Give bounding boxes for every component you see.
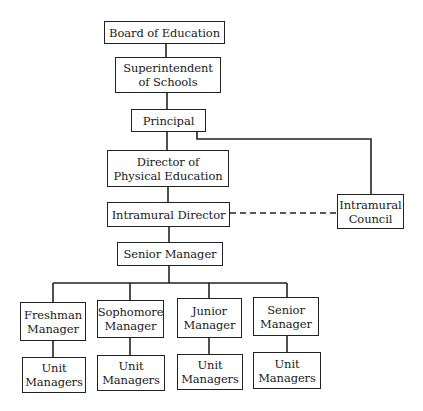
node-director-physical-education: Director of Physical Education <box>107 150 229 187</box>
org-chart: Board of Education Superintendent of Sch… <box>0 0 423 411</box>
node-principal: Principal <box>131 109 206 132</box>
node-senior-class-manager: Senior Manager <box>253 297 319 336</box>
node-superintendent: Superintendent of Schools <box>115 57 221 93</box>
node-intramural-director: Intramural Director <box>107 202 230 227</box>
node-board-of-education: Board of Education <box>104 21 225 44</box>
node-senior-manager: Senior Manager <box>117 242 223 266</box>
node-junior-manager: Junior Manager <box>177 298 242 338</box>
node-unit-managers-sophomore: Unit Managers <box>97 355 165 391</box>
node-intramural-council: Intramural Council <box>337 194 404 229</box>
node-unit-managers-senior: Unit Managers <box>253 352 321 389</box>
node-freshman-manager: Freshman Manager <box>20 302 86 341</box>
node-sophomore-manager: Sophomore Manager <box>97 300 164 338</box>
node-unit-managers-junior: Unit Managers <box>177 354 243 390</box>
node-unit-managers-freshman: Unit Managers <box>22 357 86 393</box>
